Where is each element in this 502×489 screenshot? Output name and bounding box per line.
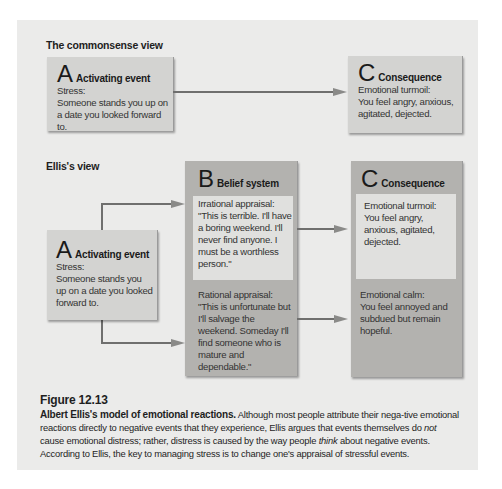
turmoil-description: You feel angry, anxious, agitated, dejec… [358, 96, 460, 120]
connector-top [101, 203, 179, 205]
belief-system-box: B Belief system Irrational appraisal: "T… [185, 161, 298, 376]
irrational-appraisal-panel: Irrational appraisal: "This is terrible.… [193, 196, 293, 280]
stress-label: Stress: [56, 261, 154, 273]
letter-c: C [361, 168, 377, 190]
stress-description: Someone stands you up on a date you look… [56, 273, 154, 309]
arrowhead-icon [171, 200, 185, 208]
arrowhead-icon [171, 339, 185, 347]
activating-event-label: Activating event [76, 73, 150, 84]
letter-a: A [57, 63, 72, 85]
connector-bottom [101, 342, 179, 344]
turmoil-label: Emotional turmoil: [364, 200, 454, 212]
rational-label: Rational appraisal: [198, 289, 293, 301]
arrowhead-icon [334, 225, 348, 233]
commonsense-arrow-line [173, 91, 339, 93]
caption-text-2: cause emotional distress; rather, distre… [40, 435, 319, 446]
connector-down [101, 320, 103, 343]
calm-text: You feel annoyed and subdued but remain … [360, 301, 455, 337]
irrational-label: Irrational appraisal: [198, 198, 292, 210]
turmoil-panel: Emotional turmoil: You feel angry, anxio… [356, 194, 456, 279]
letter-b: B [198, 168, 213, 190]
rational-text: "This is unfortunate but I'll salvage th… [198, 301, 293, 373]
arrowhead-icon [333, 88, 347, 96]
turmoil-text: You feel angry, anxious, agitated, dejec… [364, 212, 454, 248]
caption-emphasis-not: not [424, 422, 436, 433]
caption-emphasis-think: think [319, 435, 338, 446]
stress-description: Someone stands you up on a date you look… [57, 97, 169, 133]
arrowhead-icon [334, 315, 348, 323]
figure-number: Figure 12.13 [40, 393, 108, 407]
ellis-title: Ellis's view [46, 160, 99, 172]
irrational-text: "This is terrible. I'll have a boring we… [198, 210, 292, 270]
consequence-label: Consequence [378, 72, 441, 83]
caption-title: Albert Ellis's model of emotional reacti… [40, 409, 236, 420]
turmoil-label: Emotional turmoil: [358, 84, 460, 96]
belief-system-label: Belief system [217, 178, 279, 189]
letter-a: A [56, 239, 71, 261]
commonsense-title: The commonsense view [46, 39, 163, 51]
ellis-consequence-box: C Consequence Emotional turmoil: You fee… [351, 161, 463, 377]
connector-up [101, 203, 103, 231]
ellis-activating-box: A Activating event Stress: Someone stand… [47, 230, 158, 320]
consequence-label: Consequence [381, 178, 444, 189]
stress-label: Stress: [57, 85, 169, 97]
calm-label: Emotional calm: [360, 289, 455, 301]
letter-c: C [358, 62, 374, 84]
commonsense-consequence-box: C Consequence Emotional turmoil: You fee… [348, 56, 463, 133]
commonsense-activating-box: A Activating event Stress: Someone stand… [47, 57, 174, 131]
figure-caption: Albert Ellis's model of emotional reacti… [40, 408, 460, 460]
activating-event-label: Activating event [75, 249, 149, 260]
